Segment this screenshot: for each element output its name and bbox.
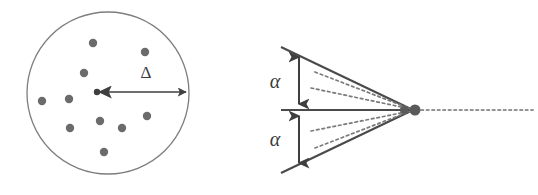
scattering-center-dot — [65, 95, 73, 103]
scattering-center-dot — [100, 148, 108, 156]
scattering-center-dot — [38, 97, 46, 105]
alpha-label-lower: α — [270, 128, 281, 150]
cone-apex-dot — [410, 105, 421, 116]
delta-label: Δ — [141, 63, 152, 82]
scattering-center-dot — [96, 117, 104, 125]
apex-secondary-dot — [400, 106, 408, 114]
figure-background — [0, 0, 538, 195]
scattering-center-dot — [143, 112, 151, 120]
scattering-center-dot — [141, 48, 149, 56]
scattering-center-dot — [66, 124, 74, 132]
scattering-center-dot — [118, 124, 126, 132]
scattering-center-dot — [80, 69, 88, 77]
figure-canvas: Δ α α — [0, 0, 538, 195]
scattering-center-dot — [89, 39, 97, 47]
figure-root: Δ α α — [0, 0, 538, 195]
alpha-label-upper: α — [270, 70, 281, 92]
